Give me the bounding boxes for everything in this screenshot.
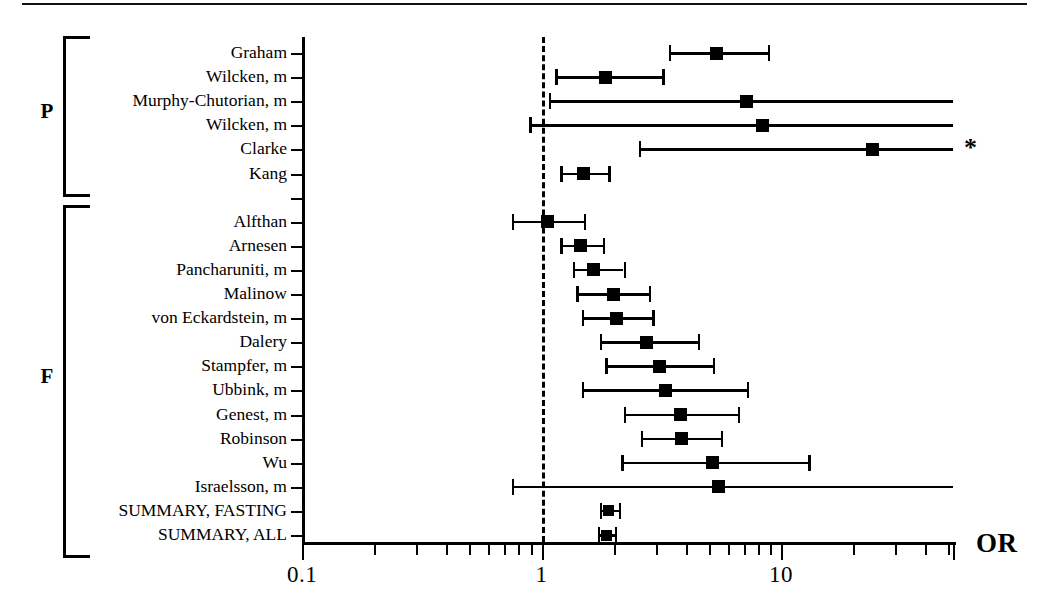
ci-cap-lower: [605, 358, 608, 374]
ci-cap-lower: [549, 93, 552, 109]
study-label: Murphy-Chutorian, m: [0, 92, 287, 109]
y-axis-tick: [291, 222, 302, 224]
x-axis-minor-tick: [895, 545, 897, 555]
ci-cap-lower: [600, 334, 603, 350]
x-axis-minor-tick: [416, 545, 418, 555]
ci-cap-upper: [608, 166, 611, 182]
study-label: Ubbink, m: [0, 381, 287, 398]
point-estimate-marker: [607, 288, 620, 301]
y-axis-line: [302, 37, 305, 542]
y-axis-tick: [291, 53, 302, 55]
x-axis-end-tick: [953, 545, 955, 560]
point-estimate-marker: [756, 119, 769, 132]
point-estimate-marker: [541, 215, 554, 228]
point-estimate-marker: [710, 47, 723, 60]
confidence-interval-line: [529, 124, 953, 127]
ci-cap-upper: [615, 527, 618, 543]
x-axis-minor-tick: [925, 545, 927, 555]
study-label: Wu: [0, 454, 287, 471]
point-estimate-marker: [610, 312, 623, 325]
y-axis-tick: [291, 415, 302, 417]
study-label: Robinson: [0, 430, 287, 447]
x-axis-minor-tick: [518, 545, 520, 555]
study-label: Arnesen: [0, 237, 287, 254]
study-label: Dalery: [0, 333, 287, 350]
ci-cap-lower: [555, 69, 558, 85]
x-axis-minor-tick: [504, 545, 506, 555]
x-tick-label: 10: [741, 562, 821, 588]
study-label: Pancharuniti, m: [0, 261, 287, 278]
y-axis-tick: [291, 101, 302, 103]
point-estimate-marker: [712, 480, 725, 493]
y-axis-tick: [291, 511, 302, 513]
ci-cap-lower: [529, 117, 532, 133]
study-label: Clarke: [0, 140, 287, 157]
forest-plot-figure: PF GrahamWilcken, mMurphy-Chutorian, mWi…: [0, 0, 1037, 606]
point-estimate-marker: [640, 336, 653, 349]
point-estimate-marker: [599, 71, 612, 84]
ci-cap-upper: [619, 503, 622, 519]
y-axis-tick: [291, 149, 302, 151]
point-estimate-marker: [601, 530, 612, 541]
point-estimate-marker: [577, 167, 590, 180]
ci-cap-upper: [698, 334, 701, 350]
x-tick-label: 1: [502, 562, 582, 588]
axis-title: OR: [976, 528, 1018, 559]
point-estimate-marker: [866, 143, 879, 156]
point-estimate-marker: [675, 432, 688, 445]
point-estimate-marker: [587, 263, 600, 276]
x-axis-minor-tick: [656, 545, 658, 555]
ci-cap-upper: [624, 262, 627, 278]
x-axis-minor-tick: [488, 545, 490, 555]
y-axis-tick: [291, 366, 302, 368]
ci-cap-lower: [512, 479, 515, 495]
study-label: Alfthan: [0, 213, 287, 230]
x-axis-minor-tick: [948, 545, 950, 555]
study-label: Genest, m: [0, 406, 287, 423]
y-axis-tick: [291, 198, 302, 200]
x-axis-minor-tick: [744, 545, 746, 555]
point-estimate-marker: [740, 95, 753, 108]
confidence-interval-line: [639, 148, 953, 151]
confidence-interval-line: [512, 486, 953, 489]
study-label: Stampfer, m: [0, 357, 287, 374]
reference-line: [542, 37, 545, 542]
study-label: Malinow: [0, 285, 287, 302]
ci-cap-lower: [624, 407, 627, 423]
y-axis-tick: [291, 318, 302, 320]
point-estimate-marker: [653, 360, 666, 373]
y-axis-tick: [291, 390, 302, 392]
x-axis-minor-tick: [614, 545, 616, 555]
ci-cap-lower: [573, 262, 576, 278]
y-axis-tick: [291, 174, 302, 176]
study-label: Wilcken, m: [0, 116, 287, 133]
study-label: Wilcken, m: [0, 68, 287, 85]
x-axis-major-tick: [542, 545, 544, 560]
top-rule: [22, 3, 1027, 5]
truncation-asterisk: *: [964, 135, 977, 161]
x-axis-line: [302, 542, 956, 545]
x-axis-minor-tick: [469, 545, 471, 555]
study-label: Kang: [0, 165, 287, 182]
x-axis-major-tick: [781, 545, 783, 560]
x-axis-minor-tick: [770, 545, 772, 555]
x-axis-minor-tick: [758, 545, 760, 555]
ci-cap-lower: [621, 455, 624, 471]
ci-cap-upper: [652, 310, 655, 326]
point-estimate-marker: [574, 239, 587, 252]
x-axis-minor-tick: [686, 545, 688, 555]
y-axis-tick: [291, 294, 302, 296]
x-axis-minor-tick: [853, 545, 855, 555]
ci-cap-lower: [512, 214, 515, 230]
study-label: Graham: [0, 44, 287, 61]
ci-cap-lower: [641, 431, 644, 447]
ci-cap-lower: [560, 238, 563, 254]
y-axis-tick: [291, 535, 302, 537]
point-estimate-marker: [674, 408, 687, 421]
ci-cap-lower: [639, 141, 642, 157]
y-axis-tick: [291, 125, 302, 127]
point-estimate-marker: [603, 505, 614, 516]
x-axis-major-tick: [302, 545, 304, 560]
y-axis-tick: [291, 342, 302, 344]
x-axis-minor-tick: [709, 545, 711, 555]
